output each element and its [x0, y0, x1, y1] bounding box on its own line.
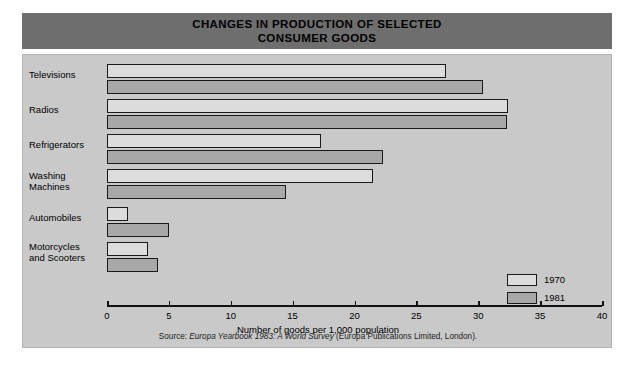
x-tick — [107, 301, 109, 306]
x-tick-label: 5 — [166, 310, 171, 321]
x-tick-label: 20 — [349, 310, 360, 321]
category-label: Refrigerators — [29, 139, 105, 150]
source-title: Europa Yearbook 1983: A World Survey — [189, 332, 333, 341]
x-tick-label: 0 — [104, 310, 109, 321]
page-title: CHANGES IN PRODUCTION OF SELECTED CONSUM… — [192, 17, 442, 45]
bar-1981-3 — [107, 185, 286, 199]
legend-swatch-1981 — [507, 292, 537, 304]
legend-item-1981: 1981 — [507, 290, 565, 305]
x-tick-label: 25 — [411, 310, 422, 321]
bar-1981-2 — [107, 150, 383, 164]
x-tick — [169, 301, 171, 306]
plot-area: TelevisionsRadiosRefrigeratorsWashing Ma… — [23, 55, 613, 349]
legend-swatch-1970 — [507, 274, 537, 286]
source-suffix: (Europa Publications Limited, London). — [334, 332, 477, 341]
x-tick-label: 40 — [597, 310, 608, 321]
x-tick — [602, 301, 604, 306]
bar-1981-4 — [107, 223, 169, 237]
bar-1970-0 — [107, 64, 446, 78]
legend-item-1970: 1970 — [507, 272, 565, 287]
legend-label-1970: 1970 — [544, 274, 565, 285]
x-tick — [416, 301, 418, 306]
bar-1970-5 — [107, 242, 148, 256]
bar-1981-5 — [107, 258, 158, 272]
bar-1970-1 — [107, 99, 508, 113]
category-label: Motorcycles and Scooters — [29, 241, 105, 263]
figure: CHANGES IN PRODUCTION OF SELECTED CONSUM… — [0, 0, 634, 367]
x-tick — [231, 301, 233, 306]
x-tick-label: 35 — [535, 310, 546, 321]
category-label: Radios — [29, 104, 105, 115]
x-tick — [478, 301, 480, 306]
chart-title-banner: CHANGES IN PRODUCTION OF SELECTED CONSUM… — [22, 13, 612, 49]
bar-1981-0 — [107, 80, 483, 94]
category-label: Automobiles — [29, 212, 105, 223]
bar-1981-1 — [107, 115, 507, 129]
bar-1970-4 — [107, 207, 128, 221]
category-label: Televisions — [29, 69, 105, 80]
source-note: Source: Europa Yearbook 1983: A World Su… — [23, 332, 613, 341]
bar-1970-3 — [107, 169, 373, 183]
bar-1970-2 — [107, 134, 321, 148]
legend: 19701981 — [507, 272, 565, 308]
legend-label-1981: 1981 — [544, 292, 565, 303]
x-tick-label: 30 — [473, 310, 484, 321]
category-label: Washing Machines — [29, 170, 105, 192]
x-tick — [355, 301, 357, 306]
x-tick — [293, 301, 295, 306]
x-tick-label: 10 — [225, 310, 236, 321]
source-prefix: Source: — [159, 332, 190, 341]
chart-panel: TelevisionsRadiosRefrigeratorsWashing Ma… — [22, 54, 612, 348]
x-tick-label: 15 — [287, 310, 298, 321]
